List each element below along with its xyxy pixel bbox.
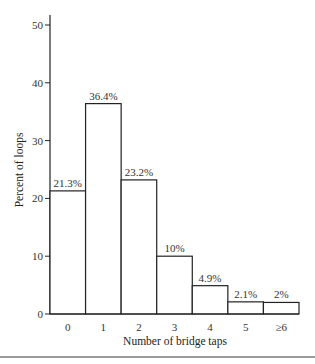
x-tick-label: 4 [207,321,213,333]
y-tick-label: 20 [32,192,44,204]
bar-value-label: 10% [164,242,184,254]
y-tick-label: 40 [32,77,44,89]
bar [263,302,299,314]
bar-chart: 01020304050 21.3%36.4%23.2%10%4.9%2.1%2%… [0,0,315,364]
bottom-divider [0,356,315,358]
bar [192,286,228,314]
x-tick-label: 0 [65,321,71,333]
y-tick-label: 50 [32,19,44,31]
x-tick-label: 2 [136,321,142,333]
bar [157,256,193,314]
x-tick-label: ≥6 [275,321,287,333]
x-axis: 012345≥6 [50,314,299,333]
bar-value-label: 2% [274,288,289,300]
bar [50,191,86,314]
y-tick-label: 10 [32,250,44,262]
x-tick-label: 3 [172,321,178,333]
bar-value-label: 2.1% [234,288,257,300]
y-tick-label: 30 [32,135,44,147]
bar-value-label: 4.9% [199,272,222,284]
bar [228,302,264,314]
x-axis-title: Number of bridge taps [123,335,227,348]
bar-value-label: 23.2% [125,166,153,178]
bar-value-label: 21.3% [54,177,82,189]
bar-value-label: 36.4% [89,90,117,102]
y-axis-title: Percent of loops [13,132,26,207]
bar [121,180,157,314]
bar [86,104,122,314]
bars: 21.3%36.4%23.2%10%4.9%2.1%2% [50,90,299,314]
y-axis: 01020304050 [32,15,50,320]
x-tick-label: 5 [243,321,249,333]
x-tick-label: 1 [101,321,107,333]
y-tick-label: 0 [38,308,44,320]
